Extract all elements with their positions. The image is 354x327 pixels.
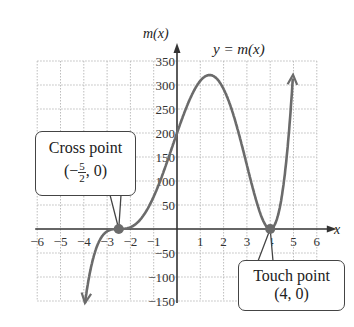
cross-point-coords: (−52, 0) xyxy=(36,161,135,184)
svg-text:−150: −150 xyxy=(148,294,175,309)
svg-text:50: 50 xyxy=(162,198,175,213)
cross-open: (− xyxy=(64,162,78,179)
svg-text:−4: −4 xyxy=(77,234,91,249)
svg-text:−6: −6 xyxy=(30,234,44,249)
cross-point-marker xyxy=(114,224,124,234)
svg-text:−5: −5 xyxy=(54,234,68,249)
cross-point-title: Cross point xyxy=(36,139,135,157)
y-axis-label: m(x) xyxy=(143,26,169,42)
svg-text:150: 150 xyxy=(156,150,176,165)
cross-close: , 0) xyxy=(86,162,107,179)
svg-text:2: 2 xyxy=(220,234,227,249)
touch-point-coords: (4, 0) xyxy=(239,285,344,303)
svg-text:5: 5 xyxy=(290,234,297,249)
chart-title: y = m(x) xyxy=(211,41,265,58)
svg-text:3: 3 xyxy=(244,234,251,249)
touch-point-callout: Touch point (4, 0) xyxy=(238,260,345,311)
svg-text:350: 350 xyxy=(156,54,176,69)
cross-point-callout: Cross point (−52, 0) xyxy=(35,131,136,196)
svg-text:250: 250 xyxy=(156,102,176,117)
touch-point-marker xyxy=(265,224,275,234)
svg-text:−100: −100 xyxy=(148,270,175,285)
svg-text:−50: −50 xyxy=(155,246,175,261)
svg-text:300: 300 xyxy=(156,78,176,93)
svg-text:−2: −2 xyxy=(123,234,137,249)
svg-text:6: 6 xyxy=(314,234,321,249)
fraction: 52 xyxy=(78,161,86,184)
fraction-denominator: 2 xyxy=(78,173,86,184)
touch-point-title: Touch point xyxy=(239,267,344,285)
x-axis-label: x xyxy=(333,222,341,237)
svg-text:200: 200 xyxy=(156,126,176,141)
svg-text:1: 1 xyxy=(197,234,204,249)
